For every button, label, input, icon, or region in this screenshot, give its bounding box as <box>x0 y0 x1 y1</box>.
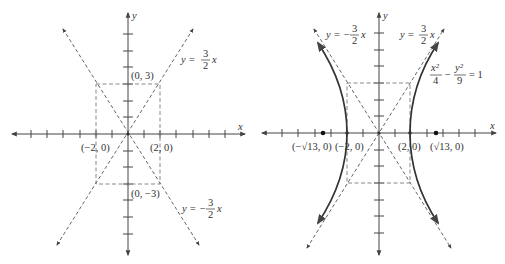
point-0-neg3 <box>126 182 129 185</box>
svg-text:2: 2 <box>352 35 357 46</box>
svg-text:x: x <box>429 29 435 40</box>
label-asymptote-positive: y = 3 2 x <box>180 48 217 71</box>
svg-text:y =: y = <box>399 29 414 40</box>
y-axis-label: y <box>382 10 388 21</box>
label-vertex-left: (−2, 0) <box>335 141 364 153</box>
svg-text:x: x <box>211 54 217 65</box>
svg-text:3: 3 <box>208 197 213 208</box>
label-point-0-neg3: (0, −3) <box>131 188 160 200</box>
svg-text:2: 2 <box>208 209 213 220</box>
svg-text:y = −: y = − <box>325 29 350 40</box>
svg-text:2: 2 <box>203 60 208 71</box>
hyperbola-equation-label: x² 4 − y² 9 = 1 <box>430 62 483 86</box>
svg-text:y =: y = <box>180 54 195 65</box>
svg-text:x: x <box>216 203 222 214</box>
svg-text:x²: x² <box>430 62 440 73</box>
vertex-right-point <box>408 131 412 135</box>
vertex-left-point <box>345 131 349 135</box>
svg-text:y²: y² <box>454 62 464 73</box>
svg-text:2: 2 <box>421 35 426 46</box>
svg-text:y = −: y = − <box>181 203 206 214</box>
asymptote-positive-line <box>307 29 444 248</box>
point-0-3 <box>126 82 129 85</box>
svg-text:−: − <box>445 69 451 80</box>
svg-text:9: 9 <box>457 75 462 86</box>
right-panel-hyperbola: y x (−√13, 0) (−2, 0) (2, 0) (√13, 0) y … <box>262 10 496 255</box>
focus-left-point <box>321 131 326 136</box>
label-focus-right: (√13, 0) <box>430 141 464 153</box>
label-asymptote-positive: y = 3 2 x <box>399 23 435 46</box>
label-point-2-0: (2, 0) <box>150 142 173 154</box>
origin-point <box>377 131 380 134</box>
label-vertex-right: (2, 0) <box>398 141 421 153</box>
point-neg2-0 <box>94 132 97 135</box>
focus-right-point <box>434 131 439 136</box>
x-axis-label: x <box>237 121 243 132</box>
label-asymptote-negative: y = − 3 2 x <box>325 23 366 46</box>
svg-text:3: 3 <box>352 23 357 34</box>
asymptote-negative-line <box>63 29 199 245</box>
label-asymptote-negative: y = − 3 2 x <box>181 197 222 220</box>
x-axis-label: x <box>489 120 495 131</box>
label-focus-left: (−√13, 0) <box>292 141 332 153</box>
y-axis-label: y <box>131 10 137 21</box>
label-point-0-3: (0, 3) <box>131 70 154 82</box>
asymptote-positive-line <box>57 29 193 245</box>
svg-text:4: 4 <box>433 75 439 86</box>
svg-text:3: 3 <box>203 48 208 59</box>
svg-text:= 1: = 1 <box>469 69 483 80</box>
svg-text:x: x <box>360 29 366 40</box>
diagram-canvas: y x (0, 3) (0, −3) (−2, 0) (2, 0) y = 3 … <box>0 0 505 264</box>
svg-text:3: 3 <box>421 23 426 34</box>
label-point-neg2-0: (−2, 0) <box>81 142 110 154</box>
left-panel-asymptotes: y x (0, 3) (0, −3) (−2, 0) (2, 0) y = 3 … <box>12 10 245 255</box>
point-2-0 <box>158 132 161 135</box>
origin-point <box>126 132 129 135</box>
